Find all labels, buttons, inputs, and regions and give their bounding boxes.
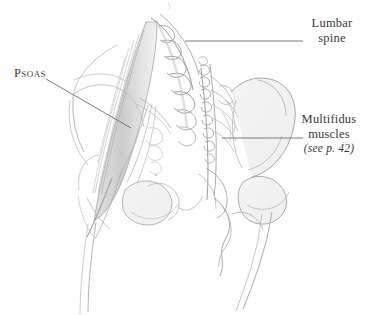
femur-head-right-view: [238, 176, 289, 224]
left-anatomy-view-psoas: [69, 2, 199, 314]
label-psoas: Psoas: [14, 66, 46, 81]
femur-shaft-right-view: [236, 212, 272, 311]
sacrum-right-view: [178, 168, 227, 218]
anatomy-figure: Lumbar spine Multifidus muscles (see p. …: [0, 0, 366, 315]
label-lumbar-spine: Lumbar spine: [300, 16, 364, 46]
label-lumbar-spine-line1: Lumbar: [312, 16, 353, 30]
anatomy-illustration-canvas: [0, 0, 366, 315]
ilium-outline-right: [231, 78, 295, 177]
label-multifidus-page-reference: (see p. 42): [294, 142, 364, 156]
label-psoas-text: Psoas: [14, 66, 46, 80]
femur-head-left-view: [122, 181, 179, 225]
lumbar-vertebrae-left-view: [151, 14, 199, 146]
sacrum-left-view: [146, 128, 163, 185]
label-multifidus-line2: muscles: [294, 127, 364, 142]
right-anatomy-view-multifidus: [178, 57, 295, 311]
label-multifidus-muscles: Multifidus muscles (see p. 42): [294, 112, 364, 155]
label-lumbar-spine-line2: spine: [300, 31, 364, 46]
label-multifidus-line1: Multifidus: [302, 112, 357, 126]
cropped-sketch-mark: [168, 2, 170, 10]
